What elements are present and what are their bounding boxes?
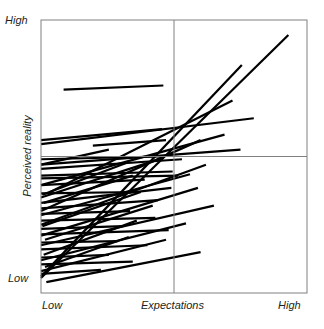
data-line-segment [41, 241, 118, 242]
y-axis-high-label: High [5, 14, 28, 26]
x-axis-title: Expectations [141, 299, 204, 311]
chart-figure: High Perceived reality Low Low Expectati… [0, 0, 324, 329]
data-line-segment [41, 192, 137, 193]
y-axis-title: Perceived reality [21, 106, 33, 206]
x-axis-high-label: High [278, 299, 301, 311]
x-axis-low-label: Low [42, 299, 62, 311]
y-axis-low-label: Low [8, 272, 28, 284]
scatter-plot-svg [0, 0, 324, 329]
